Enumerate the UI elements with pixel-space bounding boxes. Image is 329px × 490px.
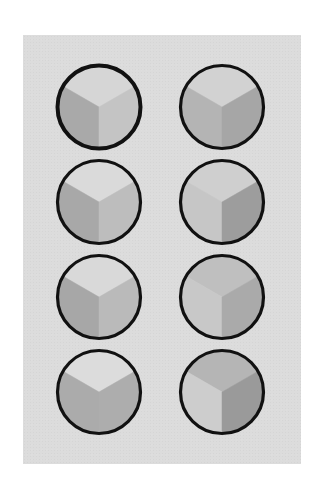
figure-canvas [0, 0, 329, 490]
shading-circle-r3-left [58, 256, 141, 339]
circle-grid [0, 0, 329, 490]
shading-circle-r1-right [181, 66, 264, 149]
shading-circle-r2-left [58, 161, 141, 244]
shading-circle-r2-right [181, 161, 264, 244]
shading-circle-r4-right [181, 351, 264, 434]
shading-circle-r1-left [58, 66, 141, 149]
shading-circle-r3-right [181, 256, 264, 339]
shading-circle-r4-left [58, 351, 141, 434]
